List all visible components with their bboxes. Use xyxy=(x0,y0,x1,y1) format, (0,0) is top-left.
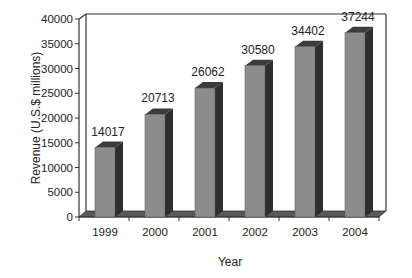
back-wall xyxy=(79,14,386,211)
y-tick-label: 15000 xyxy=(41,137,73,149)
x-tick-label: 2004 xyxy=(342,226,368,238)
x-tick-label: 2000 xyxy=(142,226,168,238)
bar-2004 xyxy=(345,27,373,217)
y-tick-label: 30000 xyxy=(41,63,73,75)
y-tick-label: 5000 xyxy=(47,186,73,198)
y-tick-label: 20000 xyxy=(41,112,73,124)
bar-2001 xyxy=(195,82,223,217)
x-tick-label: 1999 xyxy=(92,226,118,238)
y-axis-title: Revenue (U.S.$ millions) xyxy=(29,52,43,185)
y-tick-label: 25000 xyxy=(41,87,73,99)
bar-2003 xyxy=(295,41,323,217)
bar-1999 xyxy=(95,142,123,217)
data-label: 26062 xyxy=(191,65,225,79)
data-label: 34402 xyxy=(291,24,325,38)
bar-2000 xyxy=(145,108,173,217)
y-tick-label: 0 xyxy=(67,211,73,223)
x-tick-label: 2003 xyxy=(292,226,318,238)
bar-series: 140172071326062305803440237244 xyxy=(91,10,375,217)
data-label: 14017 xyxy=(91,125,125,139)
x-tick-label: 2002 xyxy=(242,226,268,238)
y-tick-label: 40000 xyxy=(41,13,73,25)
x-axis-ticks: 199920002001200220032004 xyxy=(79,217,379,238)
chart-floor xyxy=(79,211,386,217)
data-label: 30580 xyxy=(241,43,275,57)
x-axis-title: Year xyxy=(218,255,242,269)
data-label: 37244 xyxy=(341,10,375,24)
y-axis-ticks: 0500010000150002000025000300003500040000 xyxy=(41,13,79,223)
data-label: 20713 xyxy=(141,91,175,105)
bar-chart: 0500010000150002000025000300003500040000… xyxy=(0,0,412,278)
x-tick-label: 2001 xyxy=(192,226,218,238)
y-tick-label: 35000 xyxy=(41,38,73,50)
bar-2002 xyxy=(245,60,273,217)
y-tick-label: 10000 xyxy=(41,162,73,174)
